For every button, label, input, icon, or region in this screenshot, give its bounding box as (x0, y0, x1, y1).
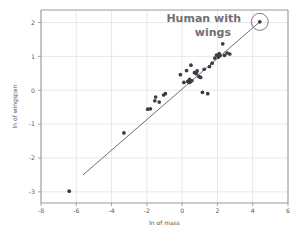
x-tick-label: -2 (144, 207, 150, 214)
annotation-line-2: wings (195, 26, 232, 39)
data-point (189, 63, 193, 67)
scatter-plot-figure: -8 -6 -4 -2 0 2 4 6 -3 -2 -1 0 1 2 ln of… (0, 0, 299, 232)
y-tick-label: -2 (29, 154, 35, 161)
x-tick-label: 0 (180, 207, 184, 214)
y-tick-label: 1 (31, 53, 35, 60)
data-point (149, 107, 153, 111)
data-point (208, 65, 212, 69)
data-point (157, 100, 161, 104)
data-point (190, 79, 194, 83)
data-point (179, 73, 183, 77)
x-tick-label: -4 (108, 207, 114, 214)
data-point (258, 20, 262, 24)
data-point (153, 99, 157, 103)
data-point (122, 131, 126, 135)
data-point (185, 69, 189, 73)
data-point (195, 69, 199, 73)
x-axis-label: ln of mass (149, 219, 180, 226)
axes-background (41, 10, 288, 203)
data-point (154, 95, 158, 99)
y-tick-label: -1 (29, 120, 35, 127)
data-point (228, 52, 232, 56)
x-tick-label: -6 (73, 207, 79, 214)
data-point (201, 90, 205, 94)
annotation-line-1: Human with (166, 12, 241, 25)
data-point (218, 54, 222, 58)
data-point (202, 67, 206, 71)
data-point (67, 189, 71, 193)
x-tick-label: 4 (251, 207, 255, 214)
data-point (164, 92, 168, 96)
data-point (221, 42, 225, 46)
x-tick-label: -8 (38, 207, 44, 214)
data-point (199, 76, 203, 80)
y-tick-label: 0 (31, 87, 35, 94)
data-point (210, 61, 214, 65)
y-tick-label: -3 (29, 188, 35, 195)
x-tick-label: 2 (215, 207, 219, 214)
y-tick-label: 2 (31, 19, 35, 26)
y-axis-label: ln of wingspan (11, 84, 19, 128)
plot-canvas: -8 -6 -4 -2 0 2 4 6 -3 -2 -1 0 1 2 ln of… (0, 0, 299, 232)
data-point (182, 81, 186, 85)
x-tick-label: 6 (286, 207, 290, 214)
data-point (206, 92, 210, 96)
